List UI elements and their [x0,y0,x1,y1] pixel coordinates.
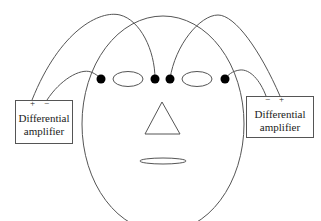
pin-minus-label: − [44,98,49,108]
left-eye [113,72,143,87]
electrode-outer-right [221,75,230,84]
amplifier-label-line1: Differential [247,108,313,121]
left-differential-amplifier: + − Differential amplifier [15,100,73,144]
wire-right-minus [225,70,266,96]
pin-plus-label: + [279,94,284,104]
right-differential-amplifier: − + Differential amplifier [246,96,314,138]
right-eye [182,72,212,87]
head-outline [82,16,244,221]
pin-minus-label: − [265,94,270,104]
nose [145,102,180,134]
electrode-outer-left [97,75,106,84]
electrode-inner-right [166,75,175,84]
pin-plus-label: + [30,98,35,108]
amplifier-label-line2: amplifier [247,121,313,134]
electrode-inner-left [151,75,160,84]
amplifier-label-line2: amplifier [16,125,72,138]
wire-left-plus [32,14,155,100]
wire-left-minus [47,71,101,100]
mouth [140,158,186,164]
amplifier-label-line1: Differential [16,112,72,125]
